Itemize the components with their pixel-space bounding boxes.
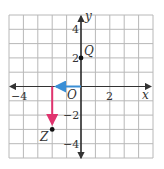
point-z <box>50 127 55 132</box>
point-q-label: Q <box>84 44 94 58</box>
y-tick-4: 4 <box>72 23 79 36</box>
x-tick-neg4: −4 <box>11 90 27 103</box>
point-q <box>79 56 84 61</box>
coordinate-plane: y x O Q Z −4 2 4 2 −2 −4 <box>0 0 164 169</box>
y-axis-label: y <box>84 9 92 23</box>
y-tick-neg2: −2 <box>63 109 79 122</box>
y-tick-2: 2 <box>72 52 79 65</box>
x-tick-2: 2 <box>106 90 113 103</box>
point-z-label: Z <box>39 130 49 144</box>
origin-label: O <box>67 88 77 102</box>
x-axis-label: x <box>142 88 149 102</box>
y-tick-neg4: −4 <box>63 138 79 151</box>
